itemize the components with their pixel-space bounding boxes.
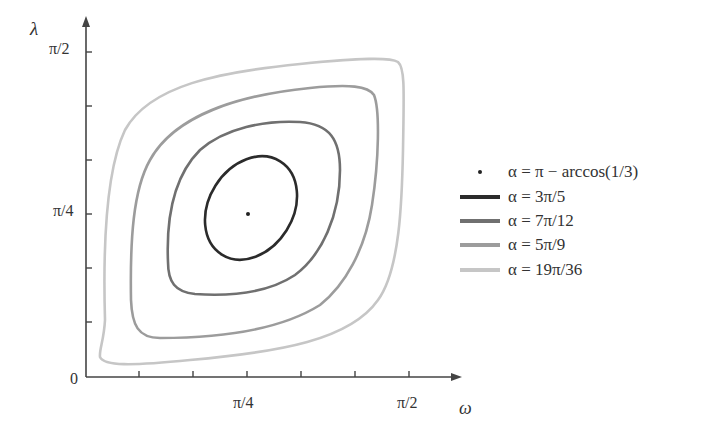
- legend-item: α = 7π/12: [460, 209, 638, 233]
- legend-label: α = π − arccos(1/3): [508, 162, 638, 182]
- origin-label: 0: [70, 370, 78, 388]
- x-axis-arrow-icon: [451, 373, 462, 381]
- axes: [86, 24, 454, 377]
- line-swatch-icon: [460, 219, 500, 223]
- legend-label: α = 19π/36: [508, 260, 582, 280]
- legend-item: α = 5π/9: [460, 233, 638, 257]
- y-axis-arrow-icon: [82, 16, 90, 27]
- line-swatch-icon: [460, 268, 500, 272]
- center-point: [246, 212, 250, 216]
- curve-alpha-7pi-12: [168, 122, 340, 295]
- legend: α = π − arccos(1/3) α = 3π/5 α = 7π/12 α…: [460, 160, 638, 282]
- x-ticks: [139, 371, 409, 377]
- x-tick-label-end: π/2: [397, 394, 418, 412]
- y-tick-label-end: π/2: [49, 40, 70, 58]
- legend-item: α = 3π/5: [460, 184, 638, 208]
- y-axis-label: λ: [30, 18, 38, 40]
- dot-icon: [478, 170, 482, 174]
- legend-item: α = 19π/36: [460, 258, 638, 282]
- y-tick-label-mid: π/4: [53, 202, 74, 220]
- legend-label: α = 7π/12: [508, 211, 574, 231]
- line-swatch-icon: [460, 243, 500, 247]
- x-axis-label: ω: [459, 398, 472, 419]
- legend-label: α = 3π/5: [508, 187, 565, 207]
- y-ticks: [86, 52, 92, 322]
- legend-label: α = 5π/9: [508, 235, 565, 255]
- x-tick-label-mid: π/4: [233, 394, 254, 412]
- curve-alpha-19pi-36: [100, 59, 404, 364]
- line-swatch-icon: [460, 195, 500, 199]
- curve-alpha-3pi-5: [186, 139, 316, 277]
- legend-item: α = π − arccos(1/3): [460, 160, 638, 184]
